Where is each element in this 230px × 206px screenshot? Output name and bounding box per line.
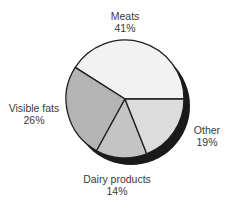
label-visible-fats: Visible fats 26% [9,102,60,126]
label-other: Other 19% [194,124,221,148]
label-visible-fats-value: 26% [23,114,44,126]
pie-slices [66,40,184,158]
label-dairy-products: Dairy products 14% [83,173,151,197]
label-meats-name: Meats [111,10,140,22]
label-other-value: 19% [196,136,217,148]
label-dairy-name: Dairy products [83,173,151,185]
label-visible-fats-name: Visible fats [9,102,60,114]
label-dairy-value: 14% [106,185,127,197]
label-meats: Meats 41% [111,10,140,34]
label-other-name: Other [194,124,221,136]
label-meats-value: 41% [114,22,135,34]
pie-chart: Meats 41% Visible fats 26% Dairy product… [0,0,230,206]
